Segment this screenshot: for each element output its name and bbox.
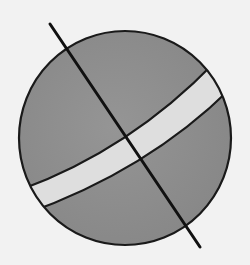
- sphere-diagram: [0, 0, 250, 265]
